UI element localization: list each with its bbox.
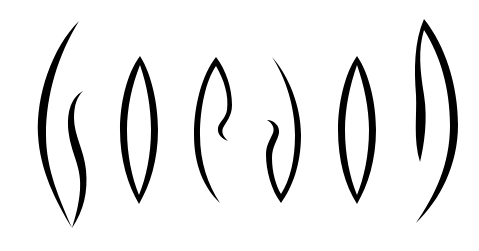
calligraphy-glyphs <box>0 0 479 251</box>
glyph-hook-left <box>266 57 301 203</box>
glyph-swirl-right <box>415 19 458 223</box>
glyph-hook-right <box>194 57 232 203</box>
glyph-lens-1 <box>120 56 158 204</box>
glyph-swirl-left <box>38 21 87 228</box>
artwork-canvas: stylized calligraphic letterforms <box>0 0 479 251</box>
glyph-lens-2 <box>338 56 376 204</box>
